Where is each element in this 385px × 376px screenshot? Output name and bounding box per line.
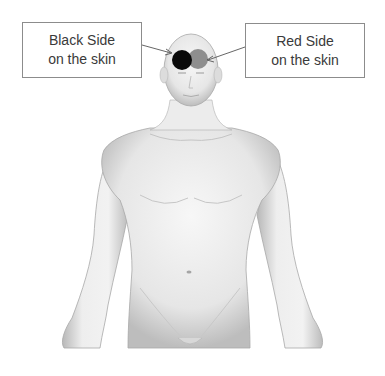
callout-red-line1: Red Side [276, 32, 334, 51]
callout-black-line1: Black Side [49, 31, 115, 50]
black-electrode-marker [172, 50, 192, 70]
callout-black-side: Black Side on the skin [22, 22, 142, 78]
callout-red-side: Red Side on the skin [245, 23, 365, 78]
callout-red-line2: on the skin [271, 51, 339, 70]
body-silhouette [62, 34, 322, 348]
callout-black-line2: on the skin [48, 50, 116, 69]
